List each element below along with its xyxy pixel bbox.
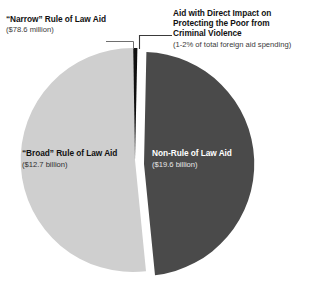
slice-label-non-rule-of-law: Non-Rule of Law Aid ($19.6 billion) — [152, 148, 262, 170]
callout-direct-impact-line1: Aid with Direct Impact on — [173, 8, 313, 18]
callout-direct-impact-line2: Protecting the Poor from — [173, 18, 313, 28]
leader-line-narrow — [106, 42, 134, 50]
pie-chart-figure: “Narrow” Rule of Law Aid ($78.6 million)… — [0, 0, 316, 288]
callout-direct-impact-line3: Criminal Violence — [173, 28, 313, 38]
slice-label-non-rule-title: Non-Rule of Law Aid — [152, 148, 262, 159]
callout-direct-impact: Aid with Direct Impact on Protecting the… — [173, 8, 313, 50]
callout-direct-impact-subtitle: (1-2% of total foreign aid spending) — [173, 40, 313, 50]
slice-label-broad-value: ($12.7 billion) — [22, 160, 142, 170]
callout-narrow-rule-of-law: “Narrow” Rule of Law Aid ($78.6 million) — [6, 14, 146, 35]
callout-narrow-value: ($78.6 million) — [6, 25, 146, 35]
callout-narrow-title: “Narrow” Rule of Law Aid — [6, 14, 146, 24]
slice-label-broad-title: “Broad” Rule of Law Aid — [22, 148, 142, 159]
slice-label-non-rule-value: ($19.6 billion) — [152, 160, 262, 170]
slice-label-broad-rule-of-law: “Broad” Rule of Law Aid ($12.7 billion) — [22, 148, 142, 170]
leader-line-direct-impact — [140, 36, 173, 50]
